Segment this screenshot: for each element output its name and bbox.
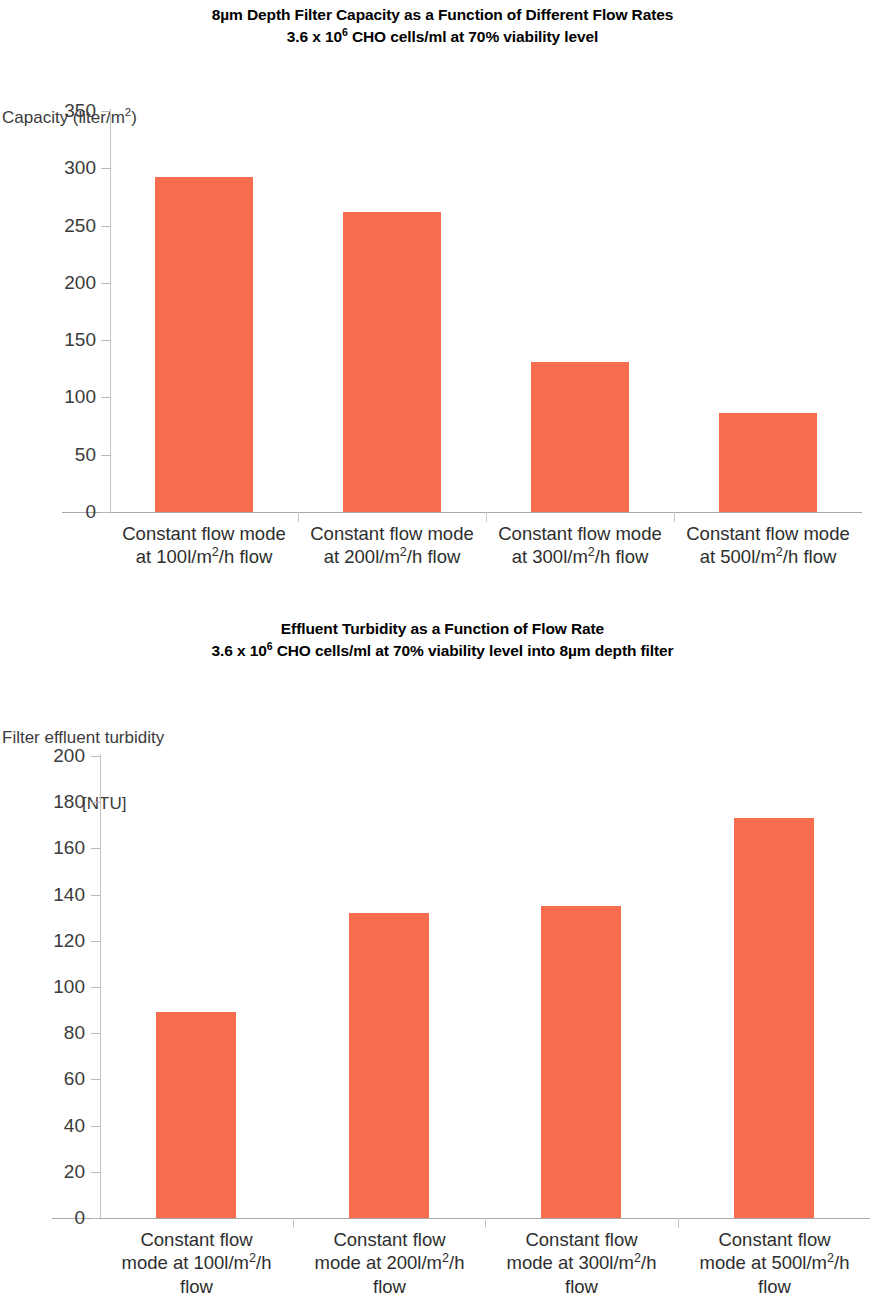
category-label-line: Constant flow [287,1228,492,1251]
category-label-exponent: 2 [249,1251,256,1265]
y-tick-mark [101,397,110,398]
category-label-text: at 300l/m [512,546,588,567]
y-tick-label: 200 [6,272,96,294]
category-label-exponent: 2 [827,1251,834,1265]
bar [531,362,629,512]
bar [734,818,814,1218]
x-axis-separator [293,1218,294,1228]
category-label-line: mode at 500l/m2/h [672,1251,877,1274]
y-tick-mark [101,455,110,456]
y-tick-label: 0 [0,1207,85,1229]
x-axis-separator [674,512,675,522]
category-label-line: flow [94,1275,299,1298]
category-label-text: /h flow [783,546,836,567]
y-tick-mark [91,895,100,896]
turbidity-chart: Effluent Turbidity as a Function of Flow… [0,600,885,1303]
y-tick-mark [91,756,100,757]
x-axis-category-label: Constant flowmode at 100l/m2/hflow [94,1228,299,1298]
category-label-exponent: 2 [588,545,595,559]
y-tick-mark [91,987,100,988]
x-axis-category-label: Constant flowmode at 200l/m2/hflow [287,1228,492,1298]
category-label-text: at 200l/m [324,546,400,567]
y-tick-label: 80 [0,1022,85,1044]
category-label-text: at 500l/m [700,546,776,567]
y-tick-label: 150 [6,329,96,351]
bar [349,913,429,1218]
y-tick-mark [91,1126,100,1127]
y-tick-mark [91,1033,100,1034]
y-tick-label: 40 [0,1115,85,1137]
y-tick-label: 350 [6,100,96,122]
y-axis-line [110,109,111,512]
y-tick-label: 100 [0,976,85,998]
y-tick-label: 60 [0,1068,85,1090]
y-tick-mark [101,111,110,112]
y-tick-mark [101,168,110,169]
capacity-chart: 8µm Depth Filter Capacity as a Function … [0,0,885,600]
capacity-plot-area: 050100150200250300350Constant flow modea… [0,0,885,600]
y-axis-line [100,754,101,1218]
category-label-line: Constant flow mode [292,522,492,545]
category-label-line: Constant flow mode [668,522,868,545]
y-tick-label: 200 [0,745,85,767]
category-label-line: flow [672,1275,877,1298]
x-axis-separator [678,1218,679,1228]
x-axis-category-label: Constant flow modeat 500l/m2/h flow [668,522,868,569]
x-axis-separator [298,512,299,522]
category-label-line: mode at 200l/m2/h [287,1251,492,1274]
y-tick-label: 100 [6,386,96,408]
y-tick-label: 120 [0,930,85,952]
category-label-line: at 100l/m2/h flow [104,545,304,568]
bar [156,1012,236,1218]
y-tick-mark [101,283,110,284]
category-label-text: /h flow [595,546,648,567]
category-label-exponent: 2 [634,1251,641,1265]
category-label-text: /h flow [407,546,460,567]
x-axis-category-label: Constant flow modeat 100l/m2/h flow [104,522,304,569]
x-axis-line [62,512,862,513]
category-label-text: mode at 100l/m [122,1252,250,1273]
category-label-exponent: 2 [212,545,219,559]
category-label-line: flow [479,1275,684,1298]
category-label-text: /h [834,1252,849,1273]
category-label-exponent: 2 [442,1251,449,1265]
bar [541,906,621,1218]
category-label-text: mode at 200l/m [315,1252,443,1273]
category-label-text: mode at 500l/m [700,1252,828,1273]
y-tick-mark [101,512,110,513]
y-tick-mark [91,848,100,849]
category-label-text: /h [256,1252,271,1273]
x-axis-line [52,1218,870,1219]
y-tick-mark [91,941,100,942]
category-label-line: Constant flow [479,1228,684,1251]
y-tick-mark [91,802,100,803]
category-label-line: mode at 100l/m2/h [94,1251,299,1274]
y-tick-mark [101,226,110,227]
category-label-line: Constant flow mode [104,522,304,545]
y-tick-mark [101,340,110,341]
category-label-text: at 100l/m [136,546,212,567]
category-label-text: mode at 300l/m [507,1252,635,1273]
category-label-line: at 300l/m2/h flow [480,545,680,568]
x-axis-category-label: Constant flow modeat 300l/m2/h flow [480,522,680,569]
y-tick-label: 0 [6,501,96,523]
category-label-line: flow [287,1275,492,1298]
y-tick-label: 300 [6,157,96,179]
category-label-text: /h flow [219,546,272,567]
y-tick-mark [91,1172,100,1173]
turbidity-plot-area: 020406080100120140160180200Constant flow… [0,600,885,1303]
category-label-line: Constant flow mode [480,522,680,545]
category-label-line: Constant flow [94,1228,299,1251]
y-tick-label: 180 [0,791,85,813]
y-tick-label: 250 [6,215,96,237]
y-tick-label: 160 [0,837,85,859]
category-label-line: at 500l/m2/h flow [668,545,868,568]
y-tick-label: 50 [6,444,96,466]
category-label-text: /h [449,1252,464,1273]
category-label-line: Constant flow [672,1228,877,1251]
y-tick-mark [91,1079,100,1080]
y-tick-mark [91,1218,100,1219]
bar [343,212,441,512]
x-axis-category-label: Constant flowmode at 500l/m2/hflow [672,1228,877,1298]
bar [719,413,817,512]
